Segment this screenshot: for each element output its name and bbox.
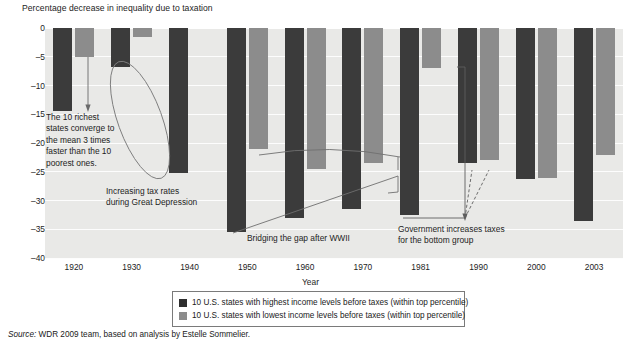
legend-swatch-icon [179, 299, 187, 307]
source-label: Source: [8, 330, 36, 339]
y-axis-tick: –15 [15, 109, 45, 119]
annotation-government-taxes: Government increases taxes for the botto… [398, 224, 508, 247]
y-axis-tick: –35 [15, 224, 45, 234]
annotation-great-depression: Increasing tax rates during Great Depres… [106, 186, 202, 209]
bar-1960-highest [285, 28, 304, 218]
y-axis-tick: –25 [15, 167, 45, 177]
y-axis-tick: –30 [15, 196, 45, 206]
gridline [45, 28, 623, 29]
bar-2003-highest [574, 28, 593, 221]
bar-1950-lowest [249, 28, 268, 149]
gridline [45, 171, 623, 172]
source-note: Source: WDR 2009 team, based on analysis… [8, 330, 250, 339]
bar-2000-highest [516, 28, 535, 179]
bar-2003-lowest [596, 28, 615, 155]
bar-1990-lowest [480, 28, 499, 160]
gridline [45, 114, 623, 115]
bar-1920-highest [53, 28, 72, 111]
bar-1990-highest [458, 28, 477, 163]
chart-legend: 10 U.S. states with highest income level… [172, 291, 465, 327]
x-axis-tick: 2003 [564, 262, 624, 272]
gridline [45, 85, 623, 86]
gridline [45, 258, 623, 259]
source-text: WDR 2009 team, based on analysis by Este… [39, 330, 251, 339]
x-axis-tick: 1930 [102, 262, 162, 272]
legend-label: 10 U.S. states with lowest income levels… [192, 311, 465, 320]
bar-1920-lowest [75, 28, 94, 57]
bar-1960-lowest [307, 28, 326, 169]
bar-1930-highest [111, 28, 130, 67]
y-axis-tick: –5 [15, 52, 45, 62]
gridline [45, 56, 623, 57]
bar-2000-lowest [538, 28, 557, 178]
legend-swatch-icon [179, 312, 187, 320]
bar-1981-lowest [422, 28, 441, 68]
gridline [45, 143, 623, 144]
x-axis-tick: 1990 [449, 262, 509, 272]
x-axis-tick: 2000 [506, 262, 566, 272]
legend-label: 10 U.S. states with highest income level… [192, 298, 468, 307]
bar-1981-highest [400, 28, 419, 215]
x-axis-tick: 1981 [391, 262, 451, 272]
legend-item: 10 U.S. states with highest income level… [179, 296, 458, 309]
bar-1970-lowest [364, 28, 383, 163]
chart-figure: Percentage decrease in inequality due to… [0, 0, 633, 347]
bar-1970-highest [342, 28, 361, 209]
x-axis-label: Year [302, 277, 319, 287]
x-axis-tick: 1950 [217, 262, 277, 272]
x-axis-tick: 1970 [333, 262, 393, 272]
annotation-richest-states: The 10 richest states converge to the me… [46, 112, 120, 169]
y-axis-tick: –40 [15, 253, 45, 263]
y-axis-tick: 0 [15, 23, 45, 33]
bar-1940-highest [169, 28, 188, 173]
gridline [45, 229, 623, 230]
chart-axis-title: Percentage decrease in inequality due to… [22, 3, 213, 13]
plot-area [45, 28, 623, 258]
legend-item: 10 U.S. states with lowest income levels… [179, 309, 458, 322]
y-axis-tick: –10 [15, 81, 45, 91]
x-axis-tick: 1940 [160, 262, 220, 272]
y-axis-tick: –20 [15, 138, 45, 148]
bar-1930-lowest [133, 28, 152, 37]
annotation-bridging-gap: Bridging the gap after WWII [247, 233, 367, 244]
x-axis-tick: 1920 [44, 262, 104, 272]
x-axis-tick: 1960 [275, 262, 335, 272]
bar-1950-highest [227, 28, 246, 232]
